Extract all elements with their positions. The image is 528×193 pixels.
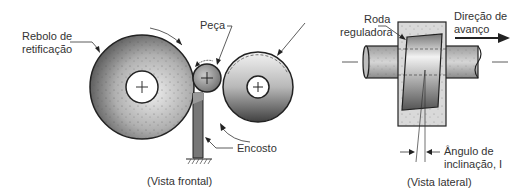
label-inclination-line2: inclinação, I xyxy=(444,158,502,170)
workpiece xyxy=(193,64,221,92)
side-view xyxy=(342,22,510,162)
label-rest: Encosto xyxy=(237,142,277,154)
label-grinding-wheel-line2: retificação xyxy=(22,43,72,55)
leader-workpiece xyxy=(218,26,232,62)
label-feed-direction-line2: avanço xyxy=(454,23,489,35)
caption-frontal-view: (Vista frontal) xyxy=(147,175,212,187)
label-feed-direction-line1: Direção de xyxy=(454,10,507,22)
label-regulating-wheel-line2: reguladora xyxy=(340,26,393,38)
leader-grinding-wheel xyxy=(70,42,99,50)
label-workpiece: Peça xyxy=(200,19,225,31)
leader-regulating-wheel xyxy=(280,23,305,53)
leader-rest xyxy=(208,140,233,148)
label-grinding-wheel-line1: Rebolo de xyxy=(22,30,72,42)
label-inclination-line1: Ângulo de xyxy=(444,145,494,157)
label-regulating-wheel-line1: Roda xyxy=(364,13,390,25)
regulating-wheel-frontal xyxy=(223,52,293,122)
rotation-arrow-regulating-wheel xyxy=(222,128,250,142)
caption-side-view: (Vista lateral) xyxy=(407,176,472,188)
grinding-wheel xyxy=(90,35,194,139)
